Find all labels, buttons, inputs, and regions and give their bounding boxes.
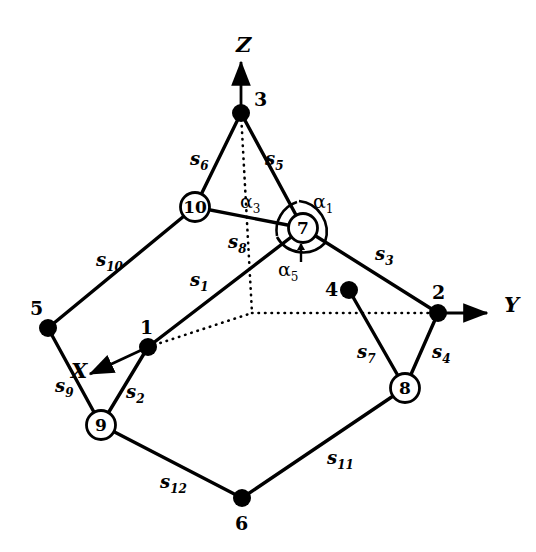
angle-label-alpha1: α1: [313, 190, 333, 216]
angle-label-alpha5: α5: [278, 258, 298, 284]
member-label-s11: s11: [327, 447, 354, 472]
member-s1[interactable]: [148, 228, 303, 347]
node-5-marker[interactable]: [39, 319, 57, 337]
node-4-label: 4: [325, 278, 338, 300]
member-label-s3: s3: [375, 243, 394, 268]
node-7-label: 7: [297, 218, 309, 238]
member-s7[interactable]: [349, 290, 405, 388]
y-axis-label: Y: [504, 292, 519, 317]
member-label-s7: s7: [357, 341, 376, 366]
hidden-1-origin: [148, 313, 252, 347]
node-8-label: 8: [399, 378, 411, 398]
node-2-marker[interactable]: [429, 304, 447, 322]
truss-diagram-canvas: 78910: [0, 0, 536, 552]
node-10-label: 10: [183, 197, 207, 217]
member-label-s10: s10: [96, 249, 123, 274]
node-5-label: 5: [30, 297, 43, 319]
node-3-label: 3: [254, 88, 267, 110]
member-s3[interactable]: [303, 228, 438, 313]
angle-alpha5-arrowhead: [297, 243, 305, 250]
member-label-s6: s6: [190, 148, 209, 173]
member-s11[interactable]: [242, 388, 405, 498]
node-2-label: 2: [432, 281, 445, 303]
node-3-marker[interactable]: [232, 104, 250, 122]
node-6-marker[interactable]: [233, 489, 251, 507]
node-1-marker[interactable]: [139, 338, 157, 356]
angle-label-alpha3: α3: [240, 190, 260, 216]
member-label-s2: s2: [126, 381, 145, 406]
member-label-s8: s8: [228, 231, 247, 256]
node-9-label: 9: [95, 415, 107, 435]
members-group: [48, 113, 438, 498]
node-1-label: 1: [140, 316, 153, 338]
x-axis-label: X: [71, 358, 87, 383]
z-axis-label: Z: [236, 32, 251, 57]
node-6-label: 6: [235, 512, 248, 534]
member-label-s1: s1: [190, 269, 209, 294]
member-label-s5: s5: [265, 148, 284, 173]
member-label-s12: s12: [160, 471, 187, 496]
member-label-s4: s4: [432, 341, 451, 366]
node-4-marker[interactable]: [340, 281, 358, 299]
